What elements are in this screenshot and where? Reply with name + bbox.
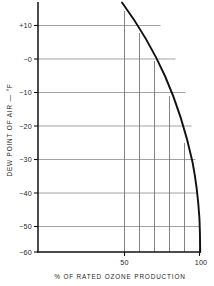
y-tick-label-0: −0 [23,55,32,64]
y-tick-label-m10: −10 [19,88,32,97]
y-tick-label-10: +10 [19,21,32,30]
chart-svg: +10 −0 −10 −20 −30 −40 −50 −60 50 100 % … [0,0,214,286]
y-tick-label-m30: −30 [19,155,32,164]
y-axis-title: DEW POINT OF AIR — °F [6,83,13,176]
y-tick-label-m60: −60 [19,248,32,257]
x-axis-title: % OF RATED OZONE PRODUCTION [54,273,185,280]
y-tick-label-m50: −50 [19,222,32,231]
x-tick-label-100: 100 [195,258,208,267]
chart-background [0,0,214,286]
y-tick-label-m40: −40 [19,189,32,198]
y-tick-label-m20: −20 [19,122,32,131]
x-tick-label-50: 50 [120,258,128,267]
chart-figure: +10 −0 −10 −20 −30 −40 −50 −60 50 100 % … [0,0,214,286]
